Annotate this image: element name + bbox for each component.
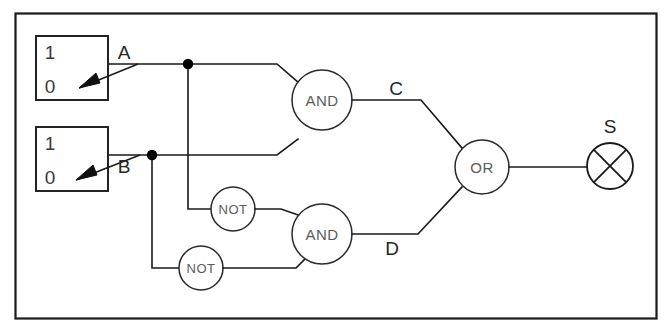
junction-dot-a <box>183 59 193 69</box>
switch-a-value-bottom: 0 <box>45 76 56 97</box>
gate-and-top-label: AND <box>305 92 338 109</box>
switch-b-value-top: 1 <box>45 133 56 154</box>
gate-or-label: OR <box>470 159 494 176</box>
junction-dot-b <box>147 150 157 160</box>
wire-not-upper-to-and-bottom <box>255 209 301 216</box>
logic-circuit-diagram: 1 0 A 1 0 B AND C <box>0 0 671 334</box>
switch-b-value-bottom: 0 <box>45 167 56 188</box>
signal-label-c: C <box>389 78 403 99</box>
gate-and-bottom-label: AND <box>305 226 338 243</box>
wire-d-to-or <box>352 187 462 234</box>
wire-c-to-or <box>352 100 462 148</box>
signal-label-d: D <box>385 238 399 259</box>
wire-a-branch-to-not-upper <box>188 64 211 209</box>
switch-a-value-top: 1 <box>45 42 56 63</box>
circuit-canvas: 1 0 A 1 0 B AND C <box>0 0 671 334</box>
wire-not-lower-to-and-bottom <box>223 256 308 268</box>
wire-b-to-and-top <box>108 139 298 155</box>
switch-a-label: A <box>118 42 131 63</box>
output-lamp-label: S <box>604 116 617 137</box>
output-lamp[interactable] <box>587 143 633 189</box>
gate-not-upper-label: NOT <box>219 202 248 217</box>
switch-b-label: B <box>118 156 131 177</box>
gate-not-lower-label: NOT <box>187 261 216 276</box>
wire-b-branch-to-not-lower <box>152 155 179 268</box>
wire-a-to-and-top <box>108 64 298 82</box>
